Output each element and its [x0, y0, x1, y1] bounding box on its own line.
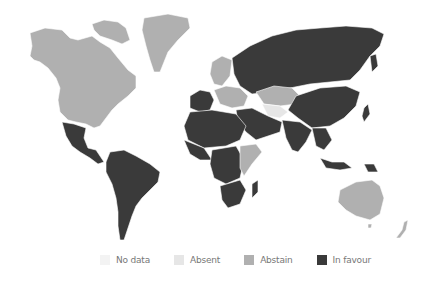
region-europe-north — [210, 56, 232, 86]
legend-item-abstain: Abstain — [244, 255, 292, 265]
legend-label-abstain: Abstain — [260, 255, 292, 265]
legend-swatch-abstain — [244, 255, 254, 265]
region-tasmania — [368, 224, 372, 228]
legend-item-absent: Absent — [174, 255, 220, 265]
legend-label-no-data: No data — [116, 255, 150, 265]
legend-swatch-absent — [174, 255, 184, 265]
region-new-guinea — [364, 164, 378, 172]
legend-swatch-no-data — [100, 255, 110, 265]
region-north-africa — [184, 110, 246, 148]
region-australia — [338, 180, 384, 220]
world-map — [0, 0, 430, 250]
region-madagascar — [252, 180, 258, 198]
legend-label-in-favour: In favour — [333, 255, 371, 265]
region-greenland — [142, 14, 190, 72]
region-europe-west — [190, 90, 214, 112]
region-east-africa — [240, 144, 262, 176]
legend-label-absent: Absent — [190, 255, 220, 265]
region-mexico — [62, 122, 104, 164]
region-southern-africa — [220, 180, 246, 208]
region-new-zealand — [396, 220, 408, 238]
region-russia — [232, 26, 384, 94]
region-southeast-asia — [312, 128, 332, 150]
region-japan — [362, 104, 370, 122]
region-indonesia — [320, 158, 352, 170]
region-south-america — [106, 150, 160, 240]
legend-swatch-in-favour — [317, 255, 327, 265]
legend-item-no-data: No data — [100, 255, 150, 265]
map-legend: No data Absent Abstain In favour — [100, 255, 395, 265]
region-central-africa — [210, 146, 244, 184]
region-kamchatka — [370, 54, 378, 72]
legend-item-in-favour: In favour — [317, 255, 371, 265]
region-europe-central — [214, 86, 248, 108]
